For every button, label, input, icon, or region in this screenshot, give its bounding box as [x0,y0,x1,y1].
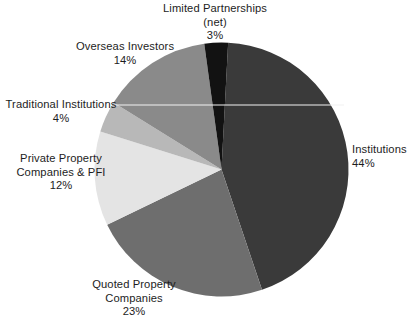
slice-label-traditional-institutions-line1: Traditional Institutions [0,98,122,112]
slice-label-traditional-institutions: Traditional Institutions 4% [0,98,122,125]
slice-label-institutions: Institutions 44% [352,143,411,170]
slice-label-overseas-investors: Overseas Investors 14% [58,40,192,67]
pie-slice-group [94,42,348,296]
slice-label-institutions-line1: Institutions [352,143,411,157]
slice-value-institutions: 44% [352,157,411,171]
slice-label-limited-partnerships-line1: Limited Partnerships [148,2,282,16]
slice-value-quoted-property-companies: 23% [68,305,200,319]
slice-label-limited-partnerships-line2: (net) [148,16,282,30]
slice-label-private-property-line1: Private Property [2,152,120,166]
slice-value-traditional-institutions: 4% [0,112,122,126]
slice-label-quoted-property-line2: Companies [68,292,200,306]
slice-label-quoted-property-companies: Quoted Property Companies 23% [68,278,200,319]
slice-label-limited-partnerships: Limited Partnerships (net) 3% [148,2,282,43]
slice-label-quoted-property-line1: Quoted Property [68,278,200,292]
slice-label-overseas-investors-line1: Overseas Investors [58,40,192,54]
slice-label-private-property-companies: Private Property Companies & PFI 12% [2,152,120,193]
slice-value-private-property-companies: 12% [2,179,120,193]
slice-label-private-property-line2: Companies & PFI [2,166,120,180]
slice-value-overseas-investors: 14% [58,54,192,68]
pie-chart-figure: Limited Partnerships (net) 3% Overseas I… [0,0,411,326]
